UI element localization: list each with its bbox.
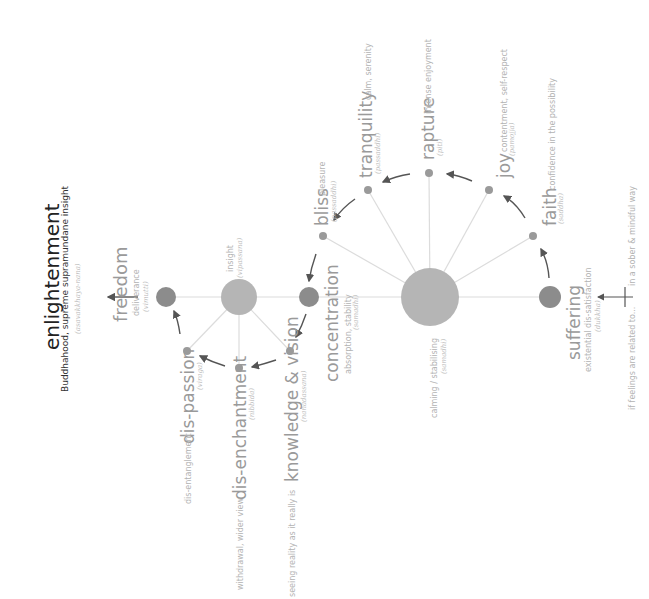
label-joy: joy	[494, 153, 514, 178]
pali-freedom: (vimutti)	[142, 281, 150, 312]
desc-rapture: intense enjoyment	[424, 39, 433, 114]
desc-suffering: existential dis-satisfaction	[584, 268, 593, 372]
desc-faith: confidence in the possibility	[548, 78, 557, 190]
pali-concentration: (samadhi)	[352, 295, 360, 330]
node-suffering	[539, 286, 561, 308]
intro-left: if feelings are related to...	[628, 307, 637, 410]
label-concentration: concentration	[322, 264, 342, 382]
pali-tranquility: (passaddhi)	[374, 133, 382, 174]
desc-tranquility: calm, serenity	[364, 43, 373, 100]
insight-hub-circle	[221, 279, 257, 315]
node-faith	[529, 232, 537, 240]
label-freedom: freedom	[110, 247, 131, 322]
label-knowledge-vision: knowledge & vision	[282, 316, 302, 482]
node-concentration	[299, 287, 319, 307]
pali-dis-enchantment: (nibbida)	[248, 388, 256, 420]
label-suffering: suffering	[564, 285, 584, 360]
desc-dis-passion: dis-entanglement	[184, 433, 193, 504]
label-dis-passion: dis-passion	[178, 349, 198, 444]
pali-dis-passion: (viraga)	[196, 362, 204, 390]
desc-knowledge-vision: seeing reality as it really is	[288, 490, 297, 597]
insight-hub-pali: (vipassana)	[236, 238, 244, 278]
intro-right: in a sober & mindful way	[628, 186, 637, 286]
label-tranquility: tranquility	[356, 91, 376, 178]
desc-enlightenment: Buddhahood, supreme supramundane insight	[60, 186, 70, 392]
node-joy	[485, 186, 493, 194]
desc-freedom: deliverance	[132, 269, 141, 316]
pali-knowledge-vision: (nanadassana)	[300, 370, 308, 422]
pali-rapture: (piti)	[436, 139, 444, 156]
samadhi-hub-pali: (samadhi)	[440, 339, 448, 374]
pali-joy: (pamojja)	[508, 123, 516, 156]
node-freedom	[156, 287, 176, 307]
samadhi-hub-label: calming / stabilising	[430, 338, 439, 418]
node-bliss	[319, 232, 327, 240]
node-rapture	[425, 169, 433, 177]
pali-faith: (saddha)	[557, 193, 565, 224]
desc-dis-enchantment: withdrawal, wider view	[236, 498, 245, 590]
insight-hub-label: insight	[226, 245, 235, 272]
node-tranquility	[364, 186, 372, 194]
pali-bliss: (passaddhi)	[330, 181, 338, 222]
pali-suffering: (dukkha)	[594, 300, 602, 332]
samadhi-hub-circle	[401, 268, 459, 326]
label-dis-enchantment: dis-enchantment	[230, 356, 250, 500]
desc-bliss: pleasure	[318, 162, 327, 196]
pali-enlightenment: (asavakkhaya-nana)	[74, 263, 82, 334]
